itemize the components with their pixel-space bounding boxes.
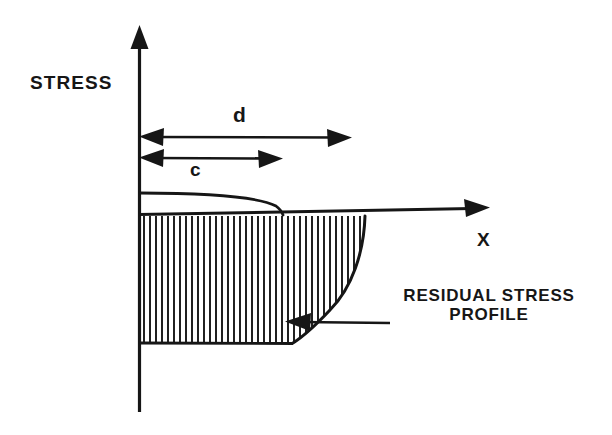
hatch-fill [144, 210, 360, 350]
residual-stress-diagram [0, 0, 612, 435]
annotation-pointer-shaft [300, 322, 390, 323]
x-axis-arrowhead-icon [464, 199, 490, 217]
region-bottom-edge [139, 343, 293, 344]
dimension-c-arrowhead-right-icon [258, 150, 283, 168]
dimension-c-arrowhead-left-icon [139, 149, 164, 167]
dimension-c-shaft [152, 158, 272, 159]
x-axis-line [139, 209, 472, 215]
dimension-label-d: d [233, 103, 246, 127]
dimension-d-arrowhead-left-icon [139, 128, 164, 146]
residual-stress-profile-label: RESIDUAL STRESSPROFILE [396, 286, 582, 324]
dimension-label-c: c [190, 159, 201, 180]
y-axis-arrowhead-icon [131, 25, 149, 49]
dimension-arrow-c [139, 149, 283, 168]
dimension-arrow-d [139, 128, 352, 147]
x-axis-label: X [477, 229, 490, 250]
annotation-line-2: PROFILE [396, 305, 582, 324]
dimension-d-shaft [152, 137, 340, 138]
diagram-canvas: STRESS X d c RESIDUAL STRESSPROFILE [0, 0, 612, 435]
residual-stress-region [139, 210, 365, 350]
y-axis-label: STRESS [30, 72, 113, 93]
axes-group [131, 25, 491, 412]
annotation-line-1: RESIDUAL STRESS [403, 286, 574, 305]
dimension-d-arrowhead-right-icon [327, 129, 352, 147]
